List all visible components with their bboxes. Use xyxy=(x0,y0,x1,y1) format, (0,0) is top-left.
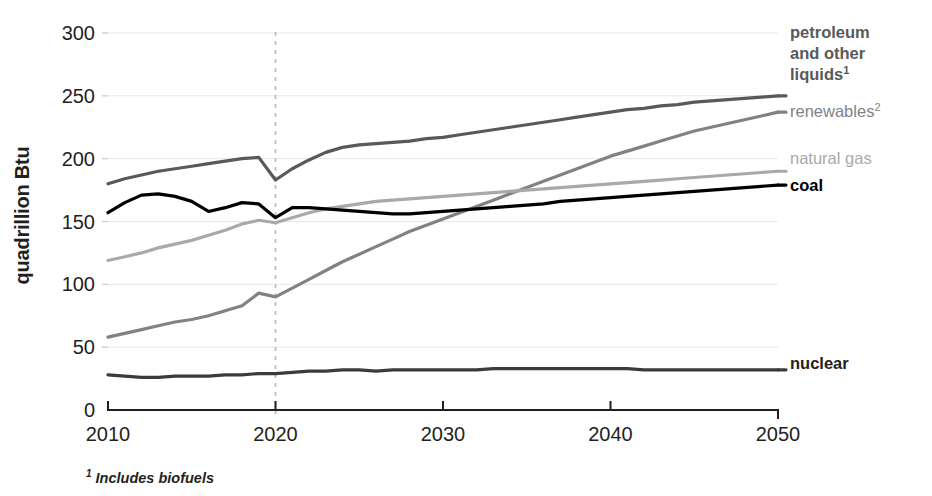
y-axis-tick-label: 150 xyxy=(62,211,95,233)
y-axis-tick-label: 100 xyxy=(62,273,95,295)
footnote-text: Includes biofuels xyxy=(96,470,214,486)
y-axis-tick-label: 200 xyxy=(62,148,95,170)
x-axis-tick-label: 2020 xyxy=(253,423,298,445)
x-axis-tick-label: 2040 xyxy=(588,423,633,445)
series-label-renewables: renewables2 xyxy=(790,101,881,122)
footnote-biofuels: 1 Includes biofuels xyxy=(86,470,214,486)
series-label-renewables-superscript: 2 xyxy=(874,101,880,113)
footnote-marker: 1 xyxy=(86,468,92,479)
data-series-group xyxy=(108,96,786,378)
series-label-petroleum: petroleum and other liquids1 xyxy=(790,22,925,85)
series-line-renewables xyxy=(108,112,778,337)
series-line-natural-gas xyxy=(108,171,778,260)
series-label-petroleum-line1: petroleum xyxy=(790,23,870,41)
series-line-coal xyxy=(108,185,778,218)
x-axis-tick-labels: 20102020203020402050 xyxy=(86,423,801,445)
series-label-coal-text: coal xyxy=(790,176,823,194)
series-label-nuclear: nuclear xyxy=(790,353,849,374)
y-axis-tick-label: 50 xyxy=(73,336,95,358)
series-label-nuclear-text: nuclear xyxy=(790,354,849,372)
series-label-petroleum-line2: and other xyxy=(790,44,865,62)
y-axis-tick-label: 300 xyxy=(62,22,95,44)
series-label-petroleum-superscript: 1 xyxy=(843,64,849,76)
series-line-petroleum-and-other-liquids xyxy=(108,96,778,184)
y-axis-tick-label: 0 xyxy=(84,399,95,421)
series-label-coal: coal xyxy=(790,175,823,196)
axis-lines xyxy=(108,401,778,419)
series-label-natural-gas: natural gas xyxy=(790,148,872,169)
series-line-nuclear xyxy=(108,369,778,378)
x-axis-tick-label: 2050 xyxy=(756,423,801,445)
chart-figure: 050100150200250300 20102020203020402050 … xyxy=(0,0,932,496)
series-label-natural-gas-text: natural gas xyxy=(790,149,872,167)
x-axis-tick-label: 2030 xyxy=(421,423,466,445)
series-label-petroleum-line3: liquids xyxy=(790,65,843,83)
y-axis-tick-labels: 050100150200250300 xyxy=(62,22,108,421)
series-label-renewables-text: renewables xyxy=(790,102,874,120)
gridlines xyxy=(108,33,778,347)
x-axis-tick-label: 2010 xyxy=(86,423,131,445)
y-axis-tick-label: 250 xyxy=(62,85,95,107)
